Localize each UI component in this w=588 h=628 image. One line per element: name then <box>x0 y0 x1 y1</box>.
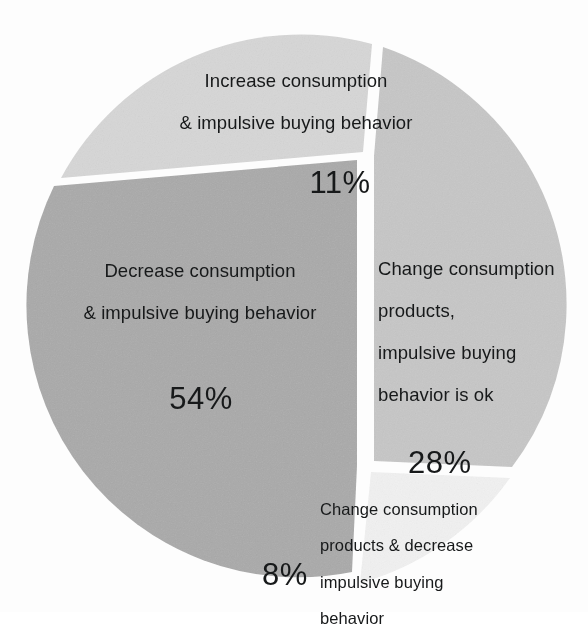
slice-label-change-ok-line3: impulsive buying <box>378 342 578 365</box>
slice-label-decrease-line2: & impulsive buying behavior <box>50 302 350 325</box>
slice-label-increase-consumption: Increase consumption & impulsive buying … <box>146 50 446 221</box>
slice-label-change-ok-line2: products, <box>378 300 578 323</box>
slice-value-decrease-consumption: 54% <box>52 380 350 418</box>
slice-value-change-products-ok: 28% <box>408 444 578 482</box>
slice-label-change-dec-line2: products & decrease <box>320 536 520 554</box>
slice-label-change-products-decrease: Change consumption products & decrease i… <box>320 482 520 628</box>
slice-label-increase-line2: & impulsive buying behavior <box>146 112 446 135</box>
slice-label-change-dec-line4: behavior <box>320 609 520 627</box>
slice-label-decrease-consumption: Decrease consumption & impulsive buying … <box>50 240 350 437</box>
slice-value-change-products-decrease: 8% <box>262 557 308 592</box>
slice-value-increase-consumption: 11% <box>234 164 446 202</box>
slice-label-change-dec-line1: Change consumption <box>320 500 520 518</box>
slice-label-decrease-line1: Decrease consumption <box>50 260 350 283</box>
slice-value-change-products-decrease-wrap: 8% <box>240 536 330 593</box>
slice-label-change-ok-line4: behavior is ok <box>378 384 578 407</box>
slice-label-change-ok-line1: Change consumption <box>378 258 578 281</box>
slice-label-change-products-ok: Change consumption products, impulsive b… <box>378 238 578 501</box>
slice-label-increase-line1: Increase consumption <box>146 70 446 93</box>
slice-label-change-dec-line3: impulsive buying <box>320 573 520 591</box>
